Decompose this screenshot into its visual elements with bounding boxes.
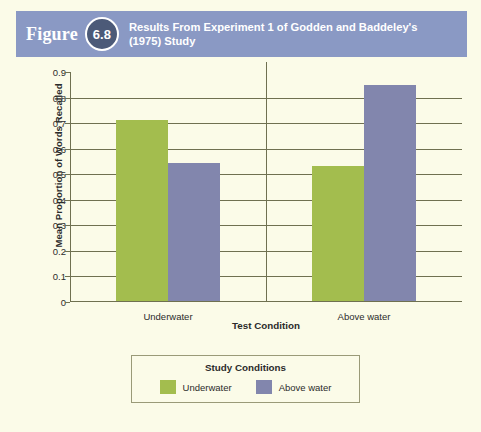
legend-label: Above water — [279, 382, 332, 393]
y-tick-mark — [65, 302, 70, 303]
plot-region: UnderwaterAbove water — [70, 72, 462, 302]
y-axis-tick-labels: 0.90.80.70.60.50.40.30.20.10 — [36, 72, 66, 302]
figure-word-label: Figure — [26, 24, 78, 45]
legend-swatch — [160, 380, 176, 394]
figure-header-banner: Figure 6.8 Results From Experiment 1 of … — [16, 11, 467, 57]
legend-swatch — [256, 380, 272, 394]
legend-entry: Above water — [256, 380, 332, 394]
y-tick-mark — [65, 72, 70, 73]
legend-entry: Underwater — [160, 380, 232, 394]
figure-number-label: 6.8 — [93, 27, 111, 42]
chart-area: Mean Proportion of Words Recalled 0.90.8… — [22, 72, 462, 332]
figure-container: Figure 6.8 Results From Experiment 1 of … — [0, 0, 481, 432]
legend-entries: UnderwaterAbove water — [132, 380, 359, 394]
figure-title: Results From Experiment 1 of Godden and … — [129, 20, 429, 48]
plot-inner: UnderwaterAbove water — [70, 72, 462, 302]
bar-underwater-above-water — [168, 163, 220, 301]
figure-number-badge: 6.8 — [85, 17, 119, 51]
legend-title: Study Conditions — [132, 362, 359, 373]
x-axis-title: Test Condition — [70, 320, 462, 331]
legend-box: Study Conditions UnderwaterAbove water — [131, 355, 360, 403]
bar-above-water-above-water — [364, 85, 416, 301]
bar-underwater-underwater — [116, 120, 168, 301]
bar-above-water-underwater — [312, 166, 364, 301]
y-axis-line — [70, 72, 71, 302]
legend-label: Underwater — [183, 382, 232, 393]
